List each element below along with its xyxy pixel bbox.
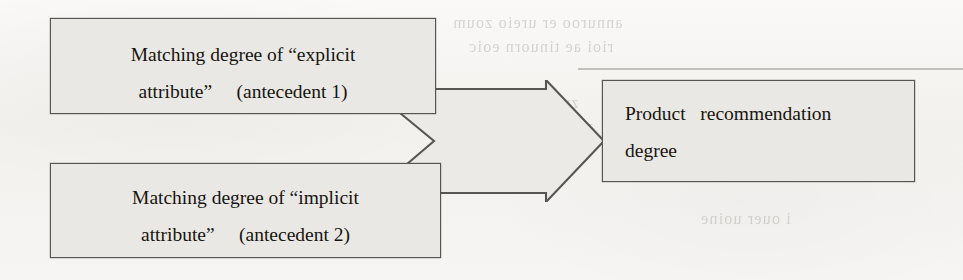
bleed-through-text: zuoim ea ar ouio xyxy=(452,94,578,112)
node-consequent-line2: degree xyxy=(603,141,914,161)
bleed-through-text: annuroo er ureio zoum xyxy=(452,14,622,32)
node-antecedent-2[interactable]: Matching degree of “implicit attribute” … xyxy=(50,163,441,258)
node-antecedent-2-line1: Matching degree of “implicit xyxy=(51,188,440,208)
bleed-through-text: rioi ae tinuorn eoic xyxy=(468,38,613,56)
node-consequent-line1: Product recommendation xyxy=(603,104,914,124)
node-antecedent-2-line2: attribute” (antecedent 2) xyxy=(51,225,440,245)
bleed-through-text: anu zuoims erun xyxy=(470,118,594,136)
diagram-canvas: annuroo er ureio zoum rioi ae tinuorn eo… xyxy=(0,0,963,280)
node-consequent[interactable]: Product recommendation degree xyxy=(602,80,915,182)
bleed-through-text: i ouer uoine xyxy=(700,210,791,228)
bleed-through-rule xyxy=(578,68,963,70)
node-antecedent-1[interactable]: Matching degree of “explicit attribute” … xyxy=(50,18,436,114)
node-antecedent-1-line2: attribute” (antecedent 1) xyxy=(51,82,435,102)
node-antecedent-1-line1: Matching degree of “explicit xyxy=(51,45,435,65)
